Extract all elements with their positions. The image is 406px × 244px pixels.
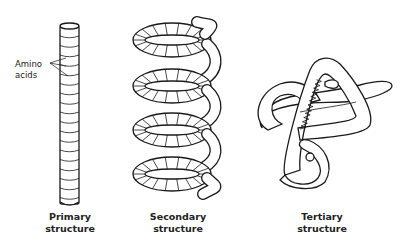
secondary-structure-caption: Secondary structure: [133, 211, 223, 235]
primary-structure-caption: Primary structure: [25, 211, 115, 235]
amino-label-line1: Amino: [15, 59, 42, 70]
caption-line1: Tertiary: [277, 211, 367, 223]
secondary-structure-helix: [133, 22, 216, 194]
helix-tube-inner: [145, 81, 199, 91]
helix-tube-inner: [145, 35, 199, 45]
caption-line2: structure: [277, 223, 367, 235]
caption-line1: Primary: [25, 211, 115, 223]
caption-line2: structure: [25, 223, 115, 235]
amino-label-line2: acids: [15, 70, 42, 81]
helix-tube-inner: [145, 169, 199, 179]
amino-acids-label: Amino acids: [15, 59, 42, 81]
tertiary-structure-caption: Tertiary structure: [277, 211, 367, 235]
protein-structure-diagram: [0, 0, 406, 244]
helix-tube-inner: [145, 125, 199, 135]
tertiary-structure-fold: [258, 58, 392, 188]
primary-structure-cylinder: [60, 23, 79, 205]
caption-line1: Secondary: [133, 211, 223, 223]
helix-connector-fill: [203, 178, 216, 194]
caption-line2: structure: [133, 223, 223, 235]
